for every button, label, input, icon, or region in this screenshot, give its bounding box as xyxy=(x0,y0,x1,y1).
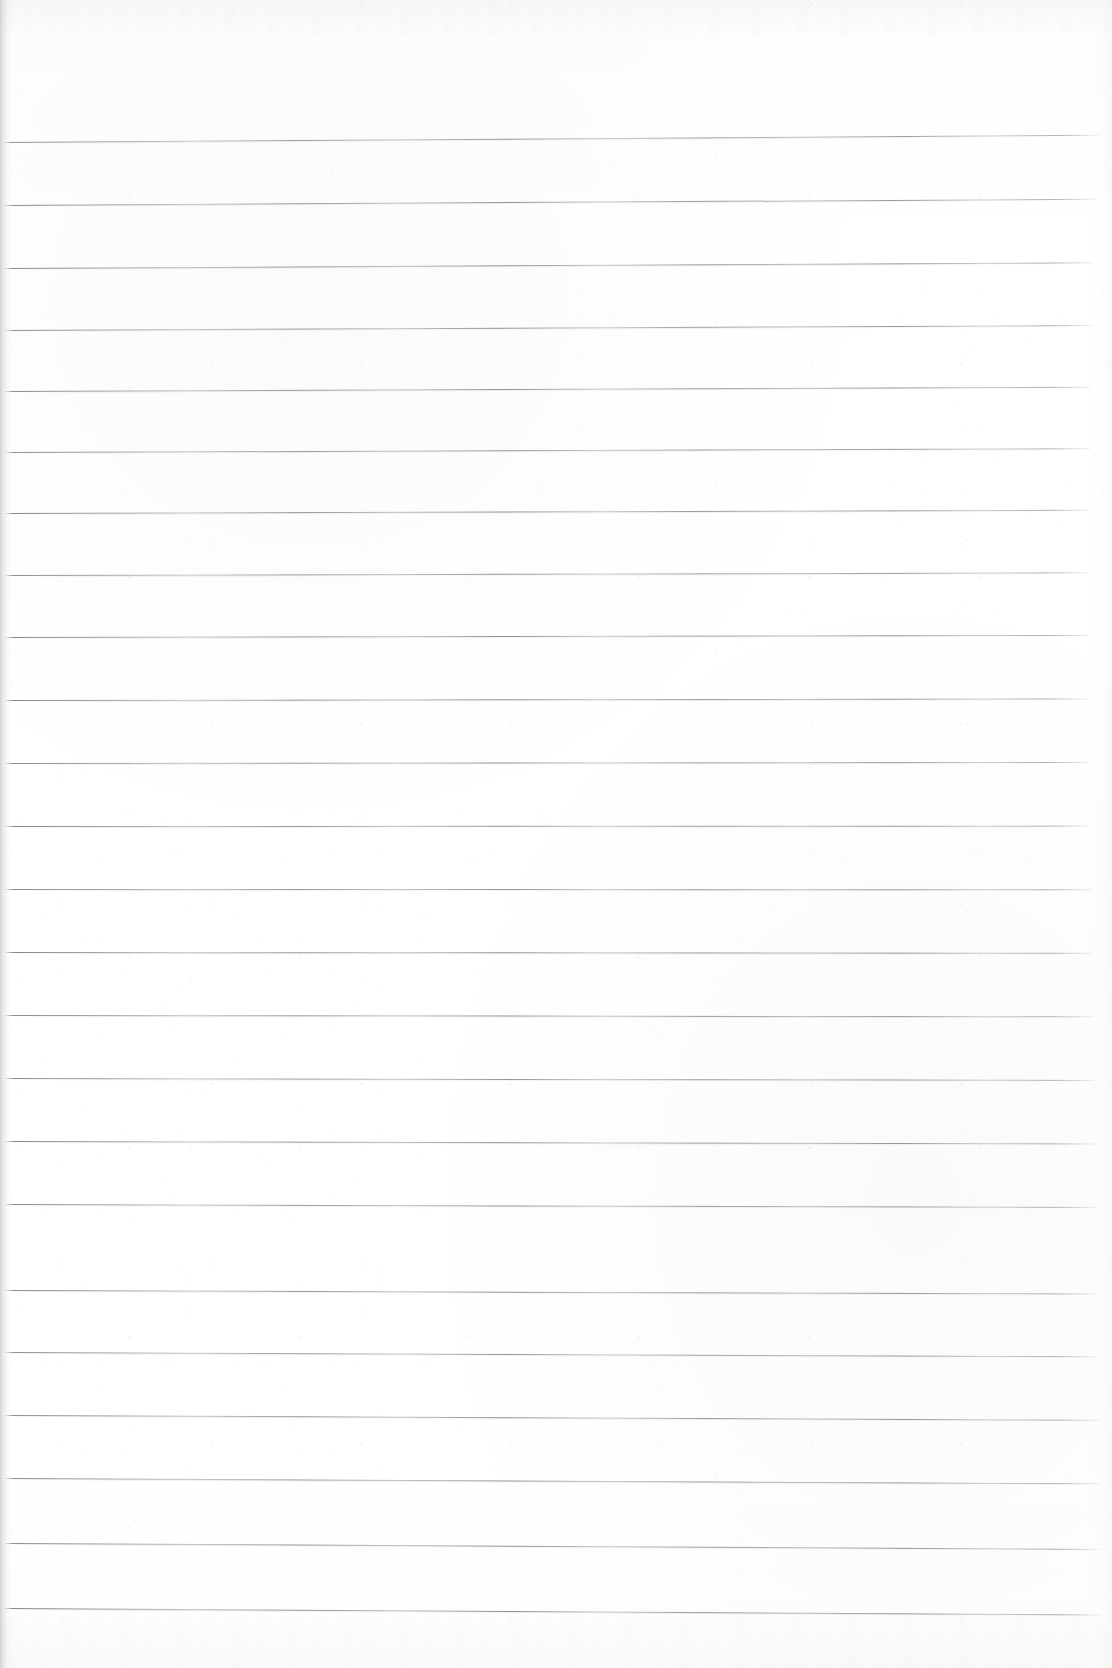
paper-sheet xyxy=(0,0,1112,1668)
scanned-page xyxy=(0,0,1112,1668)
